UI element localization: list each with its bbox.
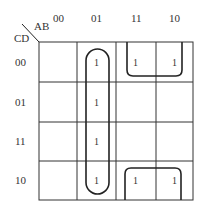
row-label-11: 11 <box>15 135 26 147</box>
col-label-10: 10 <box>169 12 181 24</box>
col-label-01: 01 <box>91 12 102 24</box>
grid <box>39 42 193 200</box>
cell-00-11: 1 <box>133 57 138 68</box>
row-var-label: CD <box>14 32 29 44</box>
col-var-label: AB <box>34 20 49 32</box>
col-label-00: 00 <box>53 12 65 24</box>
row-label-10: 10 <box>15 174 27 186</box>
cell-11-01: 1 <box>94 136 99 147</box>
cell-00-01: 1 <box>94 57 99 68</box>
col-label-11: 11 <box>131 12 142 24</box>
cell-10-11: 1 <box>133 175 138 186</box>
row-label-00: 00 <box>15 56 27 68</box>
row-label-01: 01 <box>15 96 26 108</box>
cell-01-01: 1 <box>94 97 99 108</box>
cell-00-10: 1 <box>172 57 177 68</box>
karnaugh-map: AB CD 00 01 11 10 00 01 11 10 1 1 1 1 1 … <box>0 0 203 216</box>
cell-10-10: 1 <box>172 175 177 186</box>
cell-10-01: 1 <box>94 175 99 186</box>
